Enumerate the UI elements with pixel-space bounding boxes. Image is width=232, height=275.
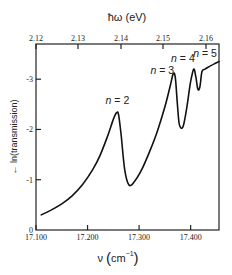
peak-label: n = 4 — [171, 52, 195, 64]
x-axis-title: ν (cm−1) — [97, 249, 138, 266]
x-tick-label: 17.200 — [77, 233, 99, 242]
y-tick-label: -2 — [26, 125, 33, 134]
x-tick-label: 17.400 — [180, 233, 202, 242]
peak-label: n = 5 — [193, 47, 217, 59]
top-axis-title: ħω (eV) — [108, 11, 147, 23]
top-tick-label: 2.13 — [71, 34, 85, 43]
peak-annotations: n = 2n = 3n = 4n = 5 — [106, 47, 217, 107]
y-tick-label: -3 — [26, 75, 33, 84]
top-tick-label: 2.16 — [199, 34, 213, 43]
x-axis-symbol: ν — [97, 252, 103, 264]
peak-label: n = 2 — [106, 94, 130, 106]
top-tick-label: 2.14 — [114, 34, 128, 43]
top-tick-label: 2.12 — [29, 34, 43, 43]
x-axis-ticks: 17.10017.20017.30017.400 — [25, 225, 202, 242]
y-tick-label: -1 — [26, 176, 33, 185]
peak-label: n = 3 — [150, 64, 174, 76]
top-axis-ticks: 2.122.132.142.152.16 — [29, 34, 213, 49]
x-tick-label: 17.300 — [128, 233, 150, 242]
y-axis-ticks: 0-1-2-3 — [26, 75, 41, 235]
top-tick-label: 2.15 — [156, 34, 170, 43]
y-axis-title: ← ln(transmission) — [9, 99, 19, 174]
y-tick-label: 0 — [29, 226, 33, 235]
transmission-curve — [41, 62, 219, 215]
chart-canvas: 17.10017.20017.30017.400 2.122.132.142.1… — [0, 0, 232, 275]
